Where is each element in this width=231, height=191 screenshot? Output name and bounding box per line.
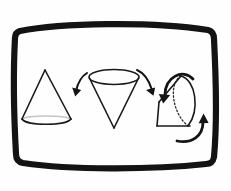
cone-rotation-diagram	[0, 0, 231, 191]
figure-container: Cone rotation sequence upright cone inve…	[0, 0, 231, 191]
